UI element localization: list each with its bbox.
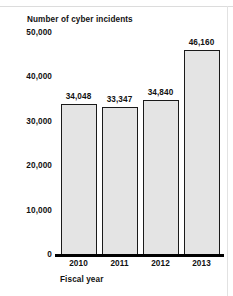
bar-2011 bbox=[102, 107, 138, 255]
bar-2012 bbox=[143, 100, 179, 255]
x-axis-tick-label-2013: 2013 bbox=[178, 259, 226, 268]
x-axis-line bbox=[55, 254, 224, 257]
y-axis-tick-label: 10,000 bbox=[26, 206, 52, 215]
y-axis-tick-label: 40,000 bbox=[26, 72, 52, 81]
chart-figure: Number of cyber incidents 50,00040,00030… bbox=[0, 0, 233, 296]
bar-value-label: 34,840 bbox=[137, 88, 185, 97]
y-axis-tick-label: 0 bbox=[47, 250, 52, 259]
y-axis-tick-label: 50,000 bbox=[26, 28, 52, 37]
page-border-top bbox=[0, 6, 233, 7]
x-axis-title: Fiscal year bbox=[60, 275, 103, 284]
plot-area bbox=[58, 33, 222, 255]
y-axis-tick-label: 20,000 bbox=[26, 161, 52, 170]
chart-title: Number of cyber incidents bbox=[27, 15, 133, 24]
bar-2010 bbox=[61, 104, 97, 255]
page-border-right bbox=[227, 6, 228, 296]
bar-2013 bbox=[184, 50, 220, 255]
y-axis-tick-label: 30,000 bbox=[26, 117, 52, 126]
bar-value-label: 46,160 bbox=[178, 38, 226, 47]
